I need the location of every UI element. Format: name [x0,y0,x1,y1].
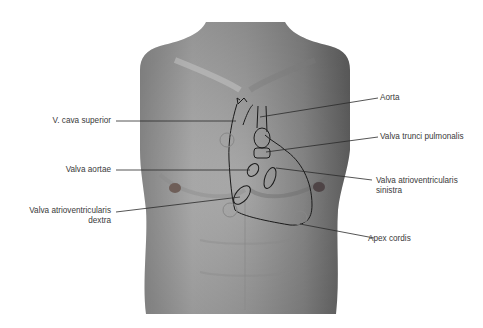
label-valva-av-sinistra: Valva atrioventricularis sinistra [376,176,458,195]
left-nipple [313,182,325,192]
label-apex-cordis: Apex cordis [368,234,411,244]
label-valva-aortae: Valva aortae [66,165,111,175]
label-valva-trunci-pulmonalis: Valva trunci pulmonalis [380,132,464,142]
label-aorta: Aorta [380,93,400,103]
anatomy-diagram: V. cava superior Valva aortae Valva atri… [0,0,483,328]
label-vena-cava-superior: V. cava superior [53,116,111,126]
torso-illustration [0,0,483,328]
right-nipple [169,183,181,193]
label-valva-av-dextra: Valva atrioventricularis dextra [29,206,111,225]
